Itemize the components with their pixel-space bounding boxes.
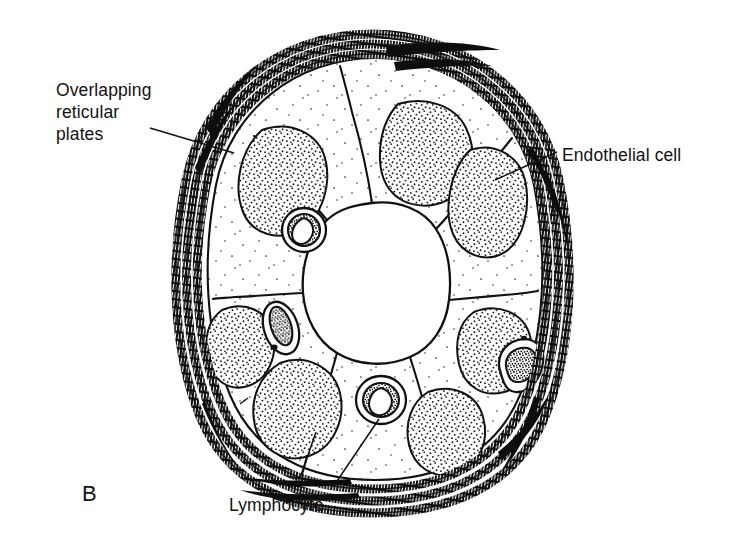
lymphocyte (356, 376, 406, 424)
label-lymphocyte: Lymphocyte (229, 494, 324, 516)
endothelial-nucleus (448, 148, 527, 258)
label-overlapping-reticular-plates: Overlapping reticular plates (56, 79, 151, 145)
panel-letter-b: B (82, 483, 97, 505)
lymphocyte (282, 208, 326, 252)
label-endothelial-cell: Endothelial cell (562, 144, 681, 166)
endothelial-nucleus (253, 360, 341, 458)
